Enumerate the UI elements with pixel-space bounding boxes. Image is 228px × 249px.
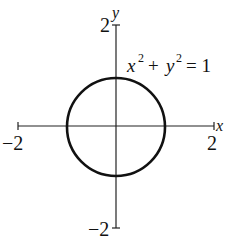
- x-axis-label: x: [215, 117, 223, 134]
- equation-x-exponent: 2: [138, 51, 144, 65]
- equation-x: x: [126, 55, 136, 76]
- y-axis-max-label: 2: [100, 14, 110, 36]
- x-axis-max-label: 2: [207, 132, 217, 154]
- y-axis-min-label: −2: [88, 218, 109, 240]
- equation-y-exponent: 2: [176, 51, 182, 65]
- y-axis-label: y: [110, 4, 120, 22]
- x-axis-min-label: −2: [2, 132, 23, 154]
- unit-circle-diagram: 2 y −2 2 x −2 x 2 + y 2 = 1: [0, 0, 228, 249]
- equation-plus: +: [148, 55, 159, 76]
- equation-equals-one: = 1: [186, 55, 211, 76]
- equation-label: x 2 + y 2 = 1: [126, 51, 211, 76]
- equation-y: y: [164, 55, 175, 76]
